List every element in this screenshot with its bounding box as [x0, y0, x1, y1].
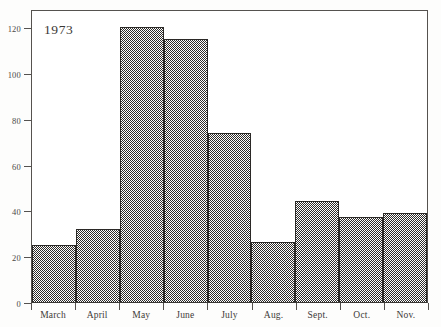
- x-axis-label: Sept.: [296, 310, 340, 320]
- y-axis-tick-label: 0: [17, 299, 21, 309]
- y-axis-tick-label: 80: [12, 116, 21, 126]
- x-axis-label: Oct.: [340, 310, 384, 320]
- x-axis-label: Aug.: [252, 310, 296, 320]
- x-axis-tick: [252, 303, 253, 310]
- x-axis-tick: [31, 303, 32, 310]
- plot-area: [31, 10, 428, 303]
- year-caption: 1973: [44, 22, 73, 38]
- bar: [32, 245, 76, 302]
- y-axis-tick: 100: [24, 74, 32, 75]
- x-axis-tick: [163, 303, 164, 310]
- y-axis-tick-label: 60: [12, 162, 21, 172]
- y-axis-tick: 40: [24, 211, 32, 212]
- y-axis-tick: 60: [24, 166, 32, 167]
- x-axis-tick: [384, 303, 385, 310]
- x-axis-tick: [207, 303, 208, 310]
- y-axis-tick-label: 20: [12, 253, 21, 263]
- x-axis-label: March: [31, 310, 75, 320]
- y-axis-tick-label: 100: [8, 70, 21, 80]
- x-axis-label: May: [119, 310, 163, 320]
- bar: [295, 201, 339, 302]
- bar-series: [32, 11, 427, 302]
- x-axis-tick: [428, 303, 429, 310]
- x-axis-tick: [75, 303, 76, 310]
- x-axis-label: April: [75, 310, 119, 320]
- bar: [164, 39, 208, 302]
- x-axis-labels: MarchAprilMayJuneJulyAug.Sept.Oct.Nov.: [31, 310, 428, 320]
- bar: [339, 217, 383, 302]
- y-axis-tick: 120: [24, 28, 32, 29]
- bar: [383, 213, 427, 302]
- y-axis-tick: 20: [24, 257, 32, 258]
- bar: [208, 133, 252, 302]
- x-axis-tick: [119, 303, 120, 310]
- x-axis-label: Nov.: [384, 310, 428, 320]
- x-axis-tick: [340, 303, 341, 310]
- bar: [76, 229, 120, 302]
- x-axis-tick: [296, 303, 297, 310]
- y-axis-tick: 80: [24, 120, 32, 121]
- x-axis-label: June: [163, 310, 207, 320]
- bar: [251, 242, 295, 302]
- bar: [120, 27, 164, 302]
- bar-chart: 020406080100120 MarchAprilMayJuneJulyAug…: [0, 0, 441, 327]
- y-axis-tick-label: 40: [12, 207, 21, 217]
- y-axis-tick-label: 120: [8, 24, 21, 34]
- x-axis-label: July: [207, 310, 251, 320]
